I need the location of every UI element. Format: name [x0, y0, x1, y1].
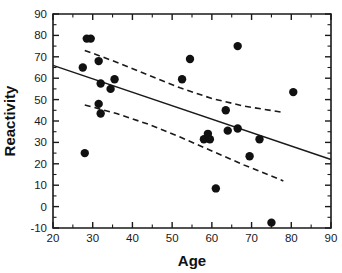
- data-point: [96, 109, 104, 117]
- y-tick-label: -10: [30, 222, 47, 234]
- y-tick-label: 50: [34, 94, 47, 106]
- x-axis-tick-labels: 2030405060708090: [47, 232, 338, 244]
- data-point: [224, 126, 232, 134]
- data-point: [94, 100, 102, 108]
- data-point: [106, 85, 114, 93]
- x-tick-label: 60: [205, 232, 218, 244]
- y-axis-tick-labels: -100102030405060708090: [30, 8, 47, 234]
- data-point: [186, 55, 194, 63]
- y-tick-label: 70: [34, 51, 47, 63]
- x-tick-label: 70: [245, 232, 258, 244]
- data-point: [245, 152, 253, 160]
- axis-frame: [53, 14, 331, 228]
- y-tick-label: 30: [34, 136, 47, 148]
- data-points: [79, 34, 298, 226]
- x-tick-label: 80: [285, 232, 298, 244]
- data-point: [94, 57, 102, 65]
- x-tick-label: 40: [126, 232, 139, 244]
- data-point: [79, 63, 87, 71]
- data-point: [222, 106, 230, 114]
- y-axis-ticks: [53, 14, 331, 228]
- y-tick-label: 0: [41, 201, 47, 213]
- x-tick-label: 20: [47, 232, 60, 244]
- data-point: [233, 42, 241, 50]
- data-point: [206, 135, 214, 143]
- data-point: [255, 135, 263, 143]
- x-axis-ticks: [53, 14, 331, 228]
- regression-line: [53, 65, 331, 159]
- x-tick-label: 90: [325, 232, 338, 244]
- scatter-plot-figure: 2030405060708090 -100102030405060708090 …: [0, 0, 342, 273]
- y-tick-label: 40: [34, 115, 47, 127]
- y-axis-title: Reactivity: [1, 85, 18, 157]
- y-tick-label: 60: [34, 72, 47, 84]
- data-point: [178, 75, 186, 83]
- y-tick-label: 20: [34, 158, 47, 170]
- data-point: [212, 184, 220, 192]
- x-axis-title: Age: [178, 252, 206, 269]
- data-point: [87, 34, 95, 42]
- lower-confidence-band: [85, 105, 284, 181]
- x-tick-label: 50: [166, 232, 179, 244]
- data-point: [110, 75, 118, 83]
- y-tick-label: 80: [34, 29, 47, 41]
- x-tick-label: 30: [86, 232, 99, 244]
- confidence-bands: [85, 50, 284, 181]
- y-tick-label: 10: [34, 179, 47, 191]
- data-point: [96, 79, 104, 87]
- axis-frame-path: [53, 14, 331, 228]
- data-point: [233, 124, 241, 132]
- data-point: [81, 149, 89, 157]
- data-point: [289, 88, 297, 96]
- data-point: [267, 218, 275, 226]
- plot-canvas: 2030405060708090 -100102030405060708090 …: [0, 0, 342, 273]
- y-tick-label: 90: [34, 8, 47, 20]
